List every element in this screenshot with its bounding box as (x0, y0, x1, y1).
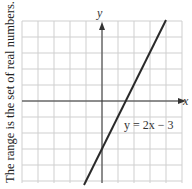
y-axis-label: y (96, 6, 103, 20)
y-axis-arrow-icon (99, 22, 105, 30)
coordinate-plane-chart: x y y = 2x − 3 (0, 0, 192, 189)
line-y-equals-2x-minus-3 (84, 20, 166, 185)
axes (22, 22, 186, 183)
x-axis-label: x (182, 94, 189, 108)
equation-label: y = 2x − 3 (124, 118, 174, 132)
